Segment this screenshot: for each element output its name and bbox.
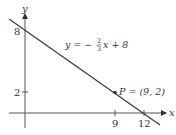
x-tick-label-9: 9 <box>112 118 118 129</box>
equation-fraction-numerator: 2 <box>97 37 101 45</box>
point-p-marker <box>113 91 117 95</box>
y-tick-label-8: 8 <box>14 26 20 37</box>
equation-rhs: x + 8 <box>103 39 128 50</box>
equation-label: y = − 2 3 x + 8 <box>64 37 128 53</box>
equation-fraction-denominator: 3 <box>97 45 101 53</box>
point-p-label: P = (9, 2) <box>118 86 165 97</box>
y-axis-label: y <box>21 3 28 14</box>
x-axis-label: x <box>169 107 175 118</box>
x-tick-label-12: 12 <box>138 118 151 129</box>
y-tick-label-2: 2 <box>14 87 20 98</box>
graph-line <box>9 19 160 125</box>
coordinate-diagram: y x 9 12 2 8 y = − 2 3 x + 8 P = (9, 2) <box>0 0 176 135</box>
equation-lhs: y = − <box>64 39 92 50</box>
